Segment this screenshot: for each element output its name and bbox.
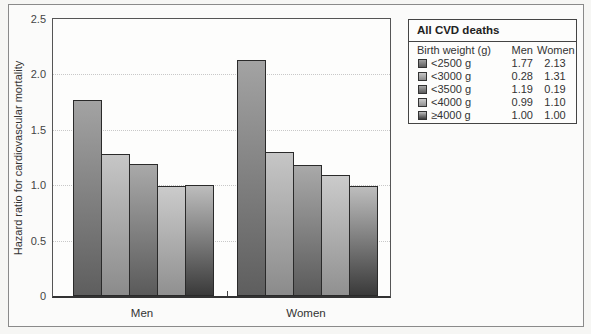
legend-value-women: 1.10	[537, 96, 573, 109]
y-tick-label: 2.5	[20, 13, 46, 25]
legend-title: All CVD deaths	[409, 20, 576, 42]
legend-label: <3000 g	[431, 70, 471, 83]
y-tick-label: 2.0	[20, 68, 46, 80]
legend-label: <4000 g	[431, 96, 471, 109]
legend-col-birth-weight: Birth weight (g)	[417, 44, 491, 57]
legend-row: ≥4000 g1.001.00	[409, 109, 576, 122]
legend-rows: <2500 g1.772.13<3000 g0.281.31<3500 g1.1…	[409, 57, 576, 122]
legend-swatch-icon	[418, 72, 427, 81]
legend-value-men: 0.99	[507, 96, 533, 109]
y-axis-label: Hazard ratio for cardiovascular mortalit…	[12, 61, 24, 255]
x-category-women: Women	[286, 307, 325, 319]
legend-value-men: 1.77	[507, 57, 533, 70]
x-category-men: Men	[131, 307, 153, 319]
bar-women-2	[293, 165, 322, 296]
bar-women-3	[321, 175, 350, 296]
group-separator-tick	[227, 291, 228, 296]
bar-men-1	[101, 154, 130, 296]
legend: All CVD deaths Birth weight (g) Men Wome…	[408, 19, 577, 124]
bar-men-2	[129, 164, 158, 296]
y-tick-label: 1.5	[20, 124, 46, 136]
legend-value-men: 0.28	[507, 70, 533, 83]
legend-row: <3000 g0.281.31	[409, 70, 576, 83]
legend-swatch-icon	[418, 111, 427, 120]
legend-col-women: Women	[537, 44, 573, 57]
gridline	[53, 74, 390, 75]
legend-value-women: 1.31	[537, 70, 573, 83]
legend-header: Birth weight (g) Men Women	[409, 44, 576, 57]
legend-value-men: 1.19	[507, 83, 533, 96]
legend-row: <4000 g0.991.10	[409, 96, 576, 109]
bar-men-4	[185, 185, 214, 296]
bar-men-0	[73, 100, 102, 296]
legend-label: <3500 g	[431, 83, 471, 96]
bar-women-4	[349, 186, 378, 296]
y-tick-label: 0.5	[20, 235, 46, 247]
legend-value-women: 1.00	[537, 109, 573, 122]
legend-label: ≥4000 g	[431, 109, 471, 122]
legend-value-women: 2.13	[537, 57, 573, 70]
legend-swatch-icon	[418, 98, 427, 107]
gridline	[53, 130, 390, 131]
y-tick-label: 0	[20, 290, 46, 302]
bar-women-0	[237, 60, 266, 296]
legend-value-men: 1.00	[507, 109, 533, 122]
legend-row: <2500 g1.772.13	[409, 57, 576, 70]
legend-row: <3500 g1.190.19	[409, 83, 576, 96]
legend-col-men: Men	[507, 44, 533, 57]
bar-women-1	[265, 152, 294, 296]
plot-area	[52, 18, 391, 298]
legend-swatch-icon	[418, 85, 427, 94]
legend-value-women: 0.19	[537, 83, 573, 96]
bar-men-3	[157, 186, 186, 296]
y-tick-label: 1.0	[20, 179, 46, 191]
legend-label: <2500 g	[431, 57, 471, 70]
legend-swatch-icon	[418, 59, 427, 68]
